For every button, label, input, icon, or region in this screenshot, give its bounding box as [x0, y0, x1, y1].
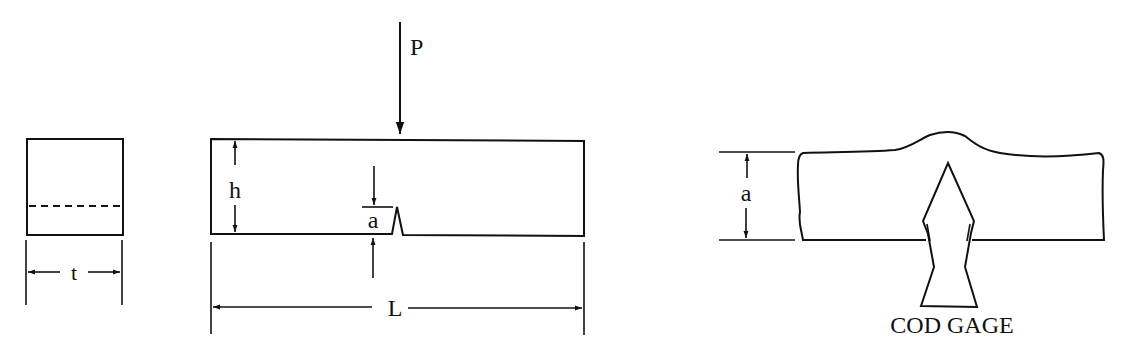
specimen-fragment-outline — [798, 132, 1104, 240]
diagram-canvas: t P h a L a — [0, 0, 1130, 354]
cross-section-outline — [27, 139, 123, 235]
detail-depth-label: a — [741, 180, 752, 206]
height-label: h — [229, 177, 241, 203]
beam-panel: P h a L — [211, 22, 584, 335]
thickness-label: t — [71, 260, 77, 285]
cod-detail-panel: a COD GAGE — [719, 132, 1104, 338]
cod-gage-label: COD GAGE — [890, 312, 1013, 338]
length-label: L — [388, 295, 403, 321]
cross-section-panel: t — [26, 139, 123, 305]
load-label: P — [410, 34, 423, 60]
beam-outline — [211, 139, 584, 236]
crack-depth-label: a — [368, 207, 379, 233]
